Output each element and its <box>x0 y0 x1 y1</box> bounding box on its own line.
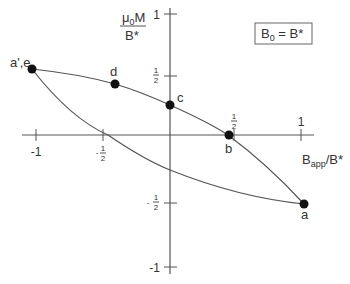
svg-text:1: 1 <box>101 144 106 153</box>
point-b <box>225 131 234 140</box>
svg-text:-: - <box>96 148 99 157</box>
svg-text:1: 1 <box>154 193 159 202</box>
hysteresis-diagram: 1 1 2 - 1 2 -1 -1 - 1 2 1 2 1 μ0M B* Bap… <box>0 0 350 284</box>
point-label-d: d <box>110 64 117 79</box>
svg-text:2: 2 <box>154 76 159 85</box>
svg-text:-: - <box>147 198 150 207</box>
point-label-b: b <box>225 141 232 156</box>
x-tick-label-neg-1: -1 <box>31 145 42 159</box>
x-tick-label-1: 1 <box>298 115 305 129</box>
svg-text:2: 2 <box>232 122 237 131</box>
svg-text:B0 = B*: B0 = B* <box>261 26 303 43</box>
y-tick-label-neg-half: - 1 2 <box>147 193 159 212</box>
svg-text:1: 1 <box>232 112 237 121</box>
y-tick-label-half: 1 2 <box>153 66 159 85</box>
point-label-c: c <box>177 90 184 105</box>
svg-text:B*: B* <box>125 28 139 43</box>
x-axis-label: Bapp/B* <box>302 152 343 169</box>
point-c <box>166 101 175 110</box>
upper-branch-curve <box>32 69 304 204</box>
point-label-a-prime-e: a',e <box>10 55 31 70</box>
x-tick-label-half: 1 2 <box>231 112 237 131</box>
x-tick-label-neg-half: - 1 2 <box>96 144 106 163</box>
y-tick-label-1: 1 <box>153 8 160 22</box>
lower-branch-curve <box>32 69 304 204</box>
point-d <box>111 80 120 89</box>
svg-text:2: 2 <box>154 203 159 212</box>
svg-text:1: 1 <box>154 66 159 75</box>
y-axis-label: μ0M B* <box>120 10 146 43</box>
condition-box: B0 = B* <box>255 23 312 44</box>
point-label-a: a <box>301 207 309 222</box>
svg-text:2: 2 <box>101 154 106 163</box>
y-tick-label-neg-1: -1 <box>149 261 160 275</box>
svg-text:μ0M: μ0M <box>122 10 145 27</box>
